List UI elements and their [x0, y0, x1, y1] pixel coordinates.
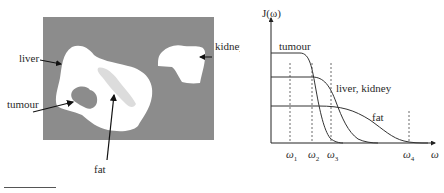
tumour-curve-label: tumour: [279, 40, 311, 52]
y-axis-label: J(ω): [262, 7, 281, 20]
tick-omega4: ω4: [403, 148, 415, 163]
tick-omega3: ω3: [327, 148, 339, 163]
liver-kidney-curve-label: liver, kidney: [336, 82, 392, 94]
fat-curve-label: fat: [372, 111, 384, 123]
tick-omega2: ω2: [308, 148, 320, 163]
anatomy-svg: liver kidney tumour fat: [0, 0, 240, 193]
tumour-label: tumour: [7, 98, 39, 110]
footnote-divider: [4, 187, 56, 188]
tick-omega1: ω1: [286, 148, 298, 163]
spectral-density-chart: J(ω) ω tumour liver, kidney fat ω1 ω2 ω3…: [240, 0, 444, 193]
x-axis-label: ω: [431, 148, 439, 160]
fat-curve: [271, 106, 428, 143]
kidney-label: kidney: [215, 40, 240, 52]
liver-label: liver: [19, 52, 39, 64]
anatomy-schematic: liver kidney tumour fat: [0, 0, 240, 193]
chart-svg: J(ω) ω tumour liver, kidney fat ω1 ω2 ω3…: [240, 0, 444, 193]
tumour-curve: [271, 53, 343, 143]
fat-label: fat: [94, 163, 106, 175]
